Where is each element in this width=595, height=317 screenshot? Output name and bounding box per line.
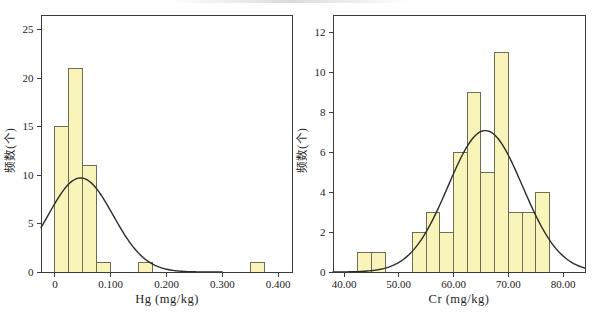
x-axis-tick-label: 40.00 (332, 278, 357, 290)
y-axis-tick-label: 4 (320, 186, 326, 198)
x-axis-tick-label: 60.00 (441, 278, 466, 290)
histogram-bar (139, 262, 153, 272)
y-axis-tick-label: 0 (320, 266, 326, 278)
y-axis-tick-label: 10 (23, 169, 35, 181)
y-axis-tick-label: 5 (28, 217, 34, 229)
y-axis-tick-label: 25 (23, 23, 35, 35)
histogram-bar (481, 172, 495, 272)
cr-x-axis-label: Cr (mg/kg) (429, 292, 490, 307)
histogram-bar (440, 232, 454, 272)
x-axis-tick-label: 0.100 (98, 278, 123, 290)
x-axis-tick-label: 50.00 (386, 278, 411, 290)
histogram-bar (358, 252, 372, 272)
histogram-bar (97, 262, 111, 272)
hg-x-axis-label: Hg (mg/kg) (135, 292, 199, 307)
x-axis-tick-label: 70.00 (496, 278, 521, 290)
hg-y-axis-label: 频数(个) (1, 127, 17, 173)
dual-histogram-figure: 00.1000.2000.3000.400051015202540.0050.0… (0, 0, 595, 317)
histogram-bar (522, 212, 536, 272)
y-axis-tick-label: 10 (315, 66, 327, 78)
y-axis-tick-label: 6 (320, 146, 326, 158)
histogram-bar (536, 192, 550, 272)
histogram-bar (495, 53, 509, 272)
x-axis-tick-label: 0.300 (210, 278, 235, 290)
cr-y-axis-label: 频数(个) (293, 127, 309, 173)
histogram-bar (426, 212, 440, 272)
x-axis-tick-label: 0.200 (154, 278, 179, 290)
y-axis-tick-label: 8 (320, 106, 326, 118)
histogram-bar (467, 93, 481, 272)
histogram-bar (508, 212, 522, 272)
x-axis-tick-label: 0.400 (266, 278, 291, 290)
y-axis-tick-label: 2 (320, 226, 326, 238)
y-axis-tick-label: 12 (315, 26, 326, 38)
x-axis-tick-label: 80.00 (551, 278, 576, 290)
y-axis-tick-label: 15 (23, 120, 35, 132)
y-axis-tick-label: 20 (23, 72, 35, 84)
histogram-bar (412, 232, 426, 272)
x-axis-tick-label: 0 (52, 278, 58, 290)
histogram-bar (69, 68, 83, 272)
y-axis-tick-label: 0 (28, 266, 34, 278)
histogram-bar (250, 262, 264, 272)
